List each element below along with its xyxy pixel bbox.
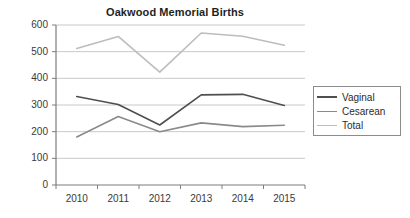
y-axis-tick-label: 500 — [18, 47, 48, 57]
legend-swatch-total — [317, 125, 337, 126]
y-axis-tick-label: 400 — [18, 73, 48, 83]
x-axis-tick-label: 2011 — [98, 194, 138, 204]
y-axis-tick-label: 300 — [18, 100, 48, 110]
legend-label: Cesarean — [342, 106, 385, 117]
x-axis-tick-label: 2015 — [264, 194, 304, 204]
y-axis-tick-label: 600 — [18, 20, 48, 30]
x-axis-tick-label: 2010 — [57, 194, 97, 204]
legend-swatch-cesarean — [317, 111, 337, 112]
series-line-cesarean — [77, 116, 285, 137]
x-axis-tick-label: 2014 — [223, 194, 263, 204]
series-line-vaginal — [77, 94, 285, 125]
y-axis-tick-label: 100 — [18, 153, 48, 163]
y-axis-tick-label: 0 — [18, 180, 48, 190]
series-line-total — [77, 33, 285, 72]
legend-item[interactable]: Total — [317, 118, 396, 132]
legend-item[interactable]: Vaginal — [317, 90, 396, 104]
chart-container: Oakwood Memorial Births 6005004003002001… — [0, 0, 410, 218]
x-axis-tick-label: 2013 — [181, 194, 221, 204]
legend-label: Total — [342, 120, 363, 131]
legend-swatch-vaginal — [317, 96, 337, 98]
legend-label: Vaginal — [342, 92, 375, 103]
chart-legend: VaginalCesareanTotal — [313, 86, 401, 136]
x-axis-tick-label: 2012 — [140, 194, 180, 204]
y-axis-tick-label: 200 — [18, 127, 48, 137]
legend-item[interactable]: Cesarean — [317, 104, 396, 118]
